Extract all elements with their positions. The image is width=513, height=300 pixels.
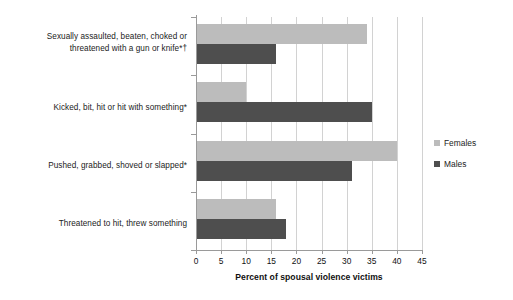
y-tick-mark <box>191 75 196 76</box>
x-axis-title: Percent of spousal violence victims <box>196 272 422 282</box>
bar-males-1 <box>196 102 372 122</box>
x-tick-mark <box>221 250 222 254</box>
bar-females-0 <box>196 24 367 44</box>
x-tick-label: 5 <box>209 256 233 266</box>
x-tick-mark <box>322 250 323 254</box>
x-tick-label: 0 <box>184 256 208 266</box>
x-tick-mark <box>422 250 423 254</box>
legend-swatch-males-icon <box>434 161 440 167</box>
y-axis-line <box>196 15 197 252</box>
category-label-line: Threatened to hit, threw something <box>59 219 187 228</box>
bar-females-1 <box>196 82 246 102</box>
legend-label-males: Males <box>444 159 466 169</box>
x-tick-label: 25 <box>310 256 334 266</box>
y-tick-mark <box>191 250 196 251</box>
x-axis-line <box>196 250 422 251</box>
bar-males-2 <box>196 161 352 181</box>
x-tick-mark <box>196 250 197 254</box>
bar-males-0 <box>196 44 276 64</box>
gridline <box>322 17 323 250</box>
gridline <box>422 17 423 250</box>
x-tick-label: 45 <box>410 256 434 266</box>
legend-item-males[interactable]: Males <box>434 157 509 171</box>
y-tick-mark <box>191 192 196 193</box>
category-label-line: Pushed, grabbed, shoved or slapped* <box>48 161 187 170</box>
x-tick-label: 15 <box>259 256 283 266</box>
bar-males-3 <box>196 219 286 239</box>
x-tick-mark <box>246 250 247 254</box>
x-tick-label: 20 <box>284 256 308 266</box>
gridline <box>296 17 297 250</box>
bar-females-3 <box>196 199 276 219</box>
plot-area <box>196 17 422 250</box>
category-label-sexually-assaulted: Sexually assaulted, beaten, choked or th… <box>8 31 187 54</box>
category-axis-labels: Sexually assaulted, beaten, choked or th… <box>8 17 191 250</box>
x-tick-mark <box>372 250 373 254</box>
legend-item-females[interactable]: Females <box>434 136 509 150</box>
legend-label-females: Females <box>444 138 476 148</box>
gridline <box>347 17 348 250</box>
gridline <box>372 17 373 250</box>
x-tick-mark <box>397 250 398 254</box>
category-label-kicked-bit: Kicked, bit, hit or hit with something* <box>8 102 187 114</box>
category-label-line: threatened with a gun or knife*† <box>70 44 187 53</box>
gridline <box>397 17 398 250</box>
category-label-threatened-to-hit: Threatened to hit, threw something <box>8 218 187 230</box>
x-tick-label: 10 <box>234 256 258 266</box>
category-label-pushed-grabbed: Pushed, grabbed, shoved or slapped* <box>8 160 187 172</box>
bar-females-2 <box>196 141 397 161</box>
x-tick-mark <box>347 250 348 254</box>
legend-swatch-females-icon <box>434 140 440 146</box>
x-tick-label: 40 <box>385 256 409 266</box>
x-tick-mark <box>271 250 272 254</box>
x-tick-label: 35 <box>360 256 384 266</box>
horizontal-bar-chart: Sexually assaulted, beaten, choked or th… <box>0 0 513 300</box>
category-label-line: Sexually assaulted, beaten, choked or <box>47 32 187 41</box>
x-tick-mark <box>296 250 297 254</box>
y-tick-mark <box>191 134 196 135</box>
legend: Females Males <box>434 136 509 178</box>
category-label-line: Kicked, bit, hit or hit with something* <box>54 103 187 112</box>
x-tick-label: 30 <box>335 256 359 266</box>
y-tick-mark <box>191 17 196 18</box>
